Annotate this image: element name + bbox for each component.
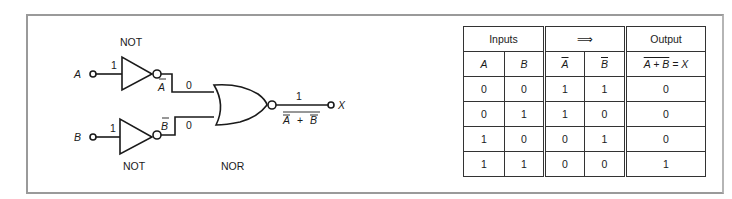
- col-output-expr: A + B: [644, 58, 670, 70]
- output-label: X: [337, 99, 346, 111]
- cell: 0: [464, 102, 505, 127]
- output-value: 1: [296, 90, 302, 102]
- header-inputs: Inputs: [464, 27, 545, 52]
- table-row: 01 10 0: [464, 102, 706, 127]
- cell: 1: [585, 77, 626, 102]
- cell: 0: [626, 102, 706, 127]
- not-b-output-label: B: [161, 120, 168, 132]
- cell: 0: [626, 77, 706, 102]
- cell: 0: [585, 152, 626, 177]
- table-row: 10 01 0: [464, 127, 706, 152]
- cell: 0: [585, 102, 626, 127]
- cell: 0: [545, 152, 585, 177]
- group-header-row: Inputs ⟹ Output: [464, 27, 706, 52]
- input-b-label: B: [74, 131, 81, 143]
- cell: 1: [545, 102, 585, 127]
- cell: 0: [464, 77, 505, 102]
- output-expr-plus: +: [297, 114, 303, 126]
- cell: 1: [464, 127, 505, 152]
- cell: 0: [626, 127, 706, 152]
- col-output-x: = X: [672, 58, 688, 70]
- input-a-value: 1: [111, 59, 117, 71]
- cell: 1: [545, 77, 585, 102]
- output-expr-a: A: [282, 114, 290, 126]
- output-expr-b: B: [310, 114, 317, 126]
- col-not-a: A: [545, 52, 585, 77]
- not-b-output-value: 0: [186, 119, 192, 131]
- col-b: B: [505, 52, 545, 77]
- col-a: A: [464, 52, 505, 77]
- gate-label-not-b: NOT: [123, 160, 146, 172]
- cell: 1: [585, 127, 626, 152]
- table-row: 00 11 0: [464, 77, 706, 102]
- input-a-label: A: [73, 68, 81, 80]
- column-header-row: A B A B A + B = X: [464, 52, 706, 77]
- cell: 1: [505, 102, 545, 127]
- truth-table: Inputs ⟹ Output A B A B A + B = X 00 11 …: [463, 26, 706, 177]
- col-not-b: B: [585, 52, 626, 77]
- header-implies: ⟹: [545, 27, 626, 52]
- gate-label-nor: NOR: [221, 160, 245, 172]
- cell: 0: [545, 127, 585, 152]
- header-output: Output: [626, 27, 706, 52]
- input-b-value: 1: [110, 122, 116, 134]
- cell: 1: [505, 152, 545, 177]
- not-a-output-value: 0: [186, 79, 192, 91]
- not-a-output-label: A: [157, 81, 165, 93]
- cell: 1: [464, 152, 505, 177]
- cell: 0: [505, 127, 545, 152]
- col-output: A + B = X: [626, 52, 706, 77]
- gate-label-not-a: NOT: [120, 36, 143, 48]
- cell: 1: [626, 152, 706, 177]
- table-row: 11 00 1: [464, 152, 706, 177]
- logic-circuit: NOT NOT NOR A B 1 1 A B 0 0 1 X A + B: [0, 0, 440, 199]
- cell: 0: [505, 77, 545, 102]
